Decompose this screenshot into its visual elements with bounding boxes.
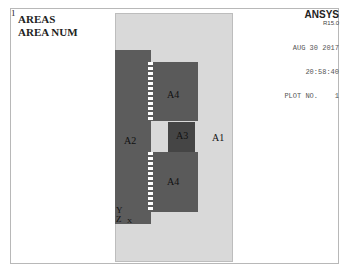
mesh-edge-ticks-top — [148, 62, 153, 121]
plot-title-line1: AREAS — [18, 13, 78, 26]
mesh-edge-ticks-bottom — [148, 152, 153, 212]
label-a3: A3 — [176, 130, 188, 141]
plot-title: AREAS AREA NUM — [18, 13, 78, 39]
plot-time: 20:58:40 — [284, 68, 339, 76]
label-a4-bottom: A4 — [167, 176, 179, 187]
plot-date: AUG 30 2017 — [284, 44, 339, 52]
triad-x-label: X — [127, 217, 132, 226]
brand-version: R15.0 — [305, 20, 339, 27]
brand-name: ANSYS — [305, 10, 339, 20]
triad-z-label: Z — [116, 215, 122, 224]
plot-meta: AUG 30 2017 20:58:40 PLOT NO. 1 — [284, 28, 339, 108]
label-a4-top: A4 — [167, 89, 179, 100]
plot-title-line2: AREA NUM — [18, 26, 78, 39]
window-number: 1 — [11, 8, 16, 18]
label-a2: A2 — [124, 135, 136, 146]
label-a1: A1 — [212, 132, 224, 143]
ansys-logo: ANSYS R15.0 — [305, 10, 339, 27]
plot-number: PLOT NO. 1 — [284, 92, 339, 100]
